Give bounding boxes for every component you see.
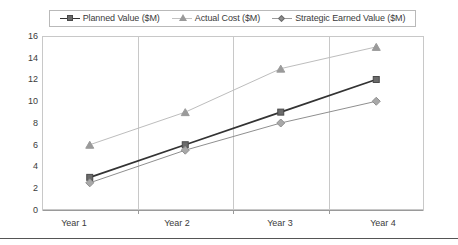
footer-divider xyxy=(0,238,458,239)
plot-area xyxy=(0,30,458,215)
legend-entry-actual-cost[interactable]: Actual Cost ($M) xyxy=(172,13,260,24)
x-axis-tick-year-2: Year 2 xyxy=(132,218,222,229)
triangle-marker-icon xyxy=(172,13,192,24)
legend-entry-planned-value[interactable]: Planned Value ($M) xyxy=(60,13,160,24)
diamond-marker-icon xyxy=(272,13,292,24)
legend-label-actual-cost: Actual Cost ($M) xyxy=(195,13,260,24)
plot-svg xyxy=(0,30,458,215)
legend-label-planned-value: Planned Value ($M) xyxy=(83,13,160,24)
x-axis-tick-year-4: Year 4 xyxy=(338,218,428,229)
legend-label-strategic-earned-value: Strategic Earned Value ($M) xyxy=(295,13,405,24)
x-axis-tick-year-1: Year 1 xyxy=(29,218,119,229)
square-marker-icon xyxy=(60,13,80,24)
x-axis-tick-year-3: Year 3 xyxy=(235,218,325,229)
legend-entry-strategic-earned-value[interactable]: Strategic Earned Value ($M) xyxy=(272,13,405,24)
chart-legend: Planned Value ($M) Actual Cost ($M) Stra… xyxy=(49,10,416,27)
chart-container: Planned Value ($M) Actual Cost ($M) Stra… xyxy=(0,0,458,245)
